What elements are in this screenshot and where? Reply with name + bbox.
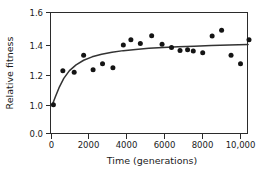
data-point: [149, 33, 154, 38]
data-point: [247, 37, 252, 42]
x-tick-label-2000: 2000: [78, 140, 100, 150]
data-point: [72, 70, 77, 75]
data-point: [110, 65, 115, 70]
x-tick-label-0: 0: [49, 140, 54, 150]
data-point: [121, 43, 126, 48]
y-tick-label-0-0: 0.0: [29, 129, 43, 139]
data-point: [128, 37, 133, 42]
data-point: [210, 34, 215, 39]
x-tick-label-10000: 10,000: [226, 140, 256, 150]
data-point: [238, 61, 243, 66]
data-point: [191, 48, 196, 53]
data-point: [100, 61, 105, 66]
data-point: [138, 41, 143, 46]
data-point: [219, 28, 224, 33]
y-tick-label-1-6: 1.6: [29, 8, 43, 18]
data-point: [169, 45, 174, 50]
data-point: [160, 42, 165, 47]
y-tick-label-1-0: 1.0: [29, 101, 43, 111]
y-axis-title: Relative fitness: [4, 37, 15, 110]
data-point: [91, 67, 96, 72]
data-point: [51, 102, 56, 107]
relative-fitness-scatter-chart: 1.6 1.4 1.2 1.0 0.0 0 2000 4000 6000 800…: [0, 0, 263, 174]
x-tick-label-6000: 6000: [154, 140, 176, 150]
y-tick-label-1-2: 1.2: [29, 71, 43, 81]
data-point: [60, 68, 65, 73]
data-point: [229, 53, 234, 58]
data-point: [81, 53, 86, 58]
x-tick-label-8000: 8000: [192, 140, 214, 150]
x-tick-label-4000: 4000: [116, 140, 138, 150]
x-axis-title: Time (generations): [106, 155, 197, 166]
chart-figure: 1.6 1.4 1.2 1.0 0.0 0 2000 4000 6000 800…: [0, 0, 263, 174]
data-point: [185, 47, 190, 52]
y-tick-label-1-4: 1.4: [29, 41, 43, 51]
data-point: [178, 48, 183, 53]
data-point: [200, 50, 205, 55]
